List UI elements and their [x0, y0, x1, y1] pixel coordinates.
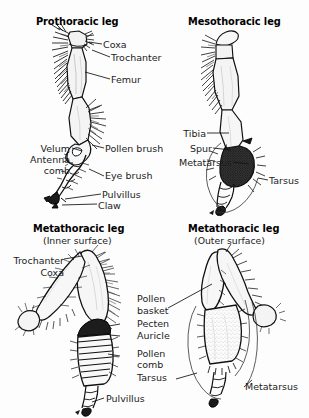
label-trochanter: Trochanter	[111, 52, 161, 63]
label-meta-coxa: Coxa	[0, 267, 64, 278]
panel-title-mesothoracic: Mesothoracic leg	[188, 16, 281, 27]
label-antenna-comb: comb	[0, 165, 70, 176]
label-tibia: Tibia	[150, 128, 206, 139]
label-pulvillus: Pulvillus	[102, 189, 141, 200]
prothoracic-leg-drawing	[44, 24, 110, 208]
label-meta-tarsus: Tarsus	[137, 372, 167, 383]
label-auricle: Auricle	[137, 330, 170, 341]
panel-subtitle-outer-surface: (Outer surface)	[194, 235, 265, 246]
panel-subtitle-inner-surface: (Inner surface)	[43, 235, 112, 246]
label-tarsus: Tarsus	[269, 175, 299, 186]
label-pollen-basket-line2: basket	[137, 305, 169, 316]
label-pollen-brush: Pollen brush	[105, 143, 163, 154]
mesothoracic-leg-drawing	[201, 31, 268, 216]
label-eye-brush: Eye brush	[105, 170, 152, 181]
label-pecten: Pecten	[137, 318, 169, 329]
label-antenna: Antenna	[0, 154, 70, 165]
panel-title-prothoracic: Prothoracic leg	[36, 16, 118, 27]
bee-leg-diagram: Prothoracic leg Coxa Trochanter Femur Ve…	[0, 0, 309, 418]
label-velum: Velum	[0, 143, 70, 154]
panel-title-metathoracic-outer: Metathoracic leg	[188, 223, 279, 234]
panel-title-metathoracic-inner: Metathoracic leg	[33, 223, 124, 234]
label-spur: Spur	[156, 143, 212, 154]
label-meta-trochanter: Trochanter	[0, 255, 64, 266]
label-pollen-comb-line1: Pollen	[137, 348, 165, 359]
label-claw: Claw	[98, 200, 121, 211]
label-meta-pulvillus: Pulvillus	[106, 393, 145, 404]
label-pollen-comb-line2: comb	[137, 359, 163, 370]
label-femur: Femur	[111, 74, 141, 85]
label-meta-metatarsus: Metatarsus	[245, 381, 298, 392]
label-metatarsus: Metatarsus	[148, 157, 232, 168]
label-coxa: Coxa	[103, 39, 127, 50]
label-pollen-basket-line1: Pollen	[137, 293, 165, 304]
